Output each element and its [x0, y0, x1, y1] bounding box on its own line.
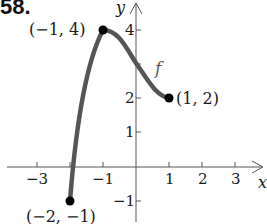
x-axis-label: x: [258, 173, 267, 192]
y-tick-label: 1: [125, 123, 135, 141]
point-label: (−2, −1): [26, 207, 96, 224]
graph-figure: 58. −3 −1 1 2 3 x 4: [0, 0, 267, 224]
problem-number: 58.: [0, 0, 31, 19]
function-curve: [70, 30, 169, 201]
y-tick-label: 4: [125, 21, 135, 39]
x-tick-label: 3: [231, 170, 241, 188]
point-marker: [165, 94, 174, 103]
x-axis: −3 −1 1 2 3 x: [7, 161, 267, 192]
x-tick-label: 1: [165, 170, 175, 188]
function-label: f: [153, 58, 164, 78]
x-tick-label: −1: [92, 170, 114, 188]
y-tick-label: −1: [113, 192, 135, 210]
point-label: (−1, 4): [29, 20, 85, 39]
point-marker: [99, 26, 108, 35]
point-label: (1, 2): [176, 89, 219, 108]
point-marker: [66, 197, 75, 206]
x-tick-label: −3: [26, 170, 48, 188]
x-tick-label: 2: [198, 170, 208, 188]
y-tick-label: 2: [125, 89, 135, 107]
y-axis-label: y: [115, 0, 126, 17]
